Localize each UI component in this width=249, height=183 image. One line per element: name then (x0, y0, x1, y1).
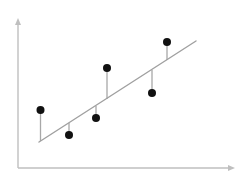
plot-background (0, 0, 249, 183)
data-point (148, 89, 156, 97)
data-point (103, 64, 111, 72)
data-point (92, 114, 100, 122)
data-point (37, 106, 45, 114)
regression-figure (0, 0, 249, 183)
data-point (65, 131, 73, 139)
regression-plot-canvas (0, 0, 249, 183)
data-point (163, 38, 171, 46)
